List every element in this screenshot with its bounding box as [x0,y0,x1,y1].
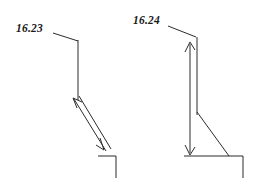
figure-right-label: 16.24 [133,14,160,26]
figure-left-label: 16.23 [16,22,43,34]
technical-drawing-canvas: 16.23 16.24 [0,0,265,187]
